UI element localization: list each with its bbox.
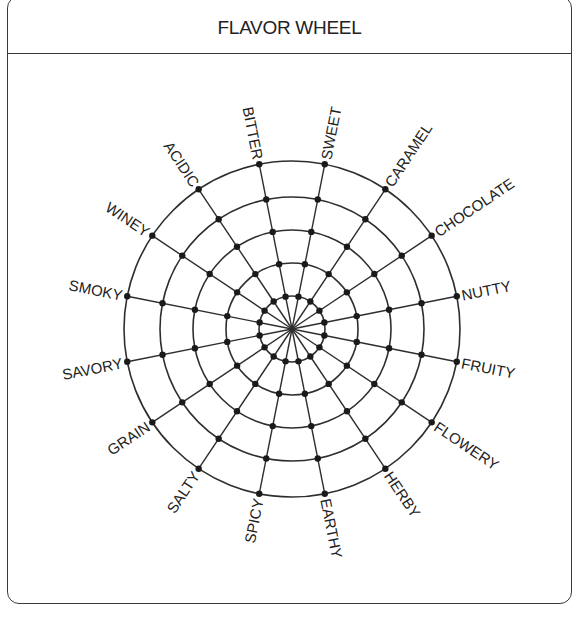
node-dot [308, 423, 314, 429]
node-dot [316, 344, 322, 350]
label-sweet: SWEET [317, 105, 344, 161]
node-dot [270, 353, 276, 359]
node-dot [344, 362, 350, 368]
label-smoky: SMOKY [68, 276, 124, 303]
node-dot [371, 381, 377, 387]
node-dot [325, 381, 331, 387]
node-dot [282, 293, 288, 299]
node-dot [418, 300, 424, 306]
node-dot [382, 186, 388, 192]
node-dot [270, 298, 276, 304]
node-dot [399, 399, 405, 405]
label-salty: SALTY [163, 468, 203, 516]
node-dot [124, 359, 130, 365]
node-dot [302, 261, 308, 267]
node-dot [215, 216, 221, 222]
node-dot [399, 252, 405, 258]
node-dot [302, 391, 308, 397]
label-caramel: CARAMEL [381, 120, 435, 190]
node-dot [269, 423, 275, 429]
node-dot [454, 293, 460, 299]
node-dot [354, 313, 360, 319]
node-dot [362, 436, 368, 442]
node-dot [263, 196, 269, 202]
node-dot [192, 306, 198, 312]
node-dot [362, 216, 368, 222]
node-dot [322, 161, 328, 167]
node-dot [195, 465, 201, 471]
label-bitter: BITTER [240, 105, 267, 161]
node-dot [261, 307, 267, 313]
node-dot [276, 261, 282, 267]
node-dot [386, 306, 392, 312]
node-dot [325, 271, 331, 277]
node-dot [418, 352, 424, 358]
label-herby: HERBY [381, 468, 424, 520]
node-dot [315, 196, 321, 202]
node-dot [159, 352, 165, 358]
label-savory: SAVORY [61, 354, 124, 383]
node-dot [149, 232, 155, 238]
node-dot [315, 455, 321, 461]
node-dot [234, 289, 240, 295]
node-dot [252, 381, 258, 387]
label-winey: WINEY [103, 199, 153, 240]
node-dot [428, 232, 434, 238]
label-spicy: SPICY [241, 497, 266, 544]
node-dot [263, 455, 269, 461]
label-nutty: NUTTY [460, 277, 512, 303]
node-dot [256, 332, 262, 338]
label-grain: GRAIN [104, 418, 153, 459]
node-dot [215, 436, 221, 442]
node-dot [252, 271, 258, 277]
node-dot [321, 319, 327, 325]
node-dot [224, 313, 230, 319]
node-dot [256, 161, 262, 167]
node-dot [428, 419, 434, 425]
node-dot [195, 186, 201, 192]
node-dot [295, 358, 301, 364]
node-dot [234, 362, 240, 368]
node-dot [149, 419, 155, 425]
flavor-wheel-diagram: BITTERSWEETCARAMELCHOCOLATENUTTYFRUITYFL… [0, 0, 582, 621]
label-acidic: ACIDIC [161, 138, 203, 190]
node-dot [124, 293, 130, 299]
node-dot [307, 353, 313, 359]
node-dot [179, 399, 185, 405]
node-dot [308, 229, 314, 235]
node-dot [159, 300, 165, 306]
node-dot [256, 491, 262, 497]
node-dot [179, 252, 185, 258]
node-dot [276, 391, 282, 397]
node-dot [344, 408, 350, 414]
node-dot [322, 491, 328, 497]
node-dot [307, 298, 313, 304]
node-dot [316, 307, 322, 313]
node-dot [371, 271, 377, 277]
node-dot [321, 332, 327, 338]
node-dot [192, 345, 198, 351]
node-dot [206, 271, 212, 277]
node-dot [344, 243, 350, 249]
node-dot [261, 344, 267, 350]
node-dot [256, 319, 262, 325]
node-dot [386, 345, 392, 351]
node-dot [206, 381, 212, 387]
node-dot [234, 243, 240, 249]
wheel-spokes [127, 164, 457, 494]
label-fruity: FRUITY [460, 354, 516, 381]
node-dot [382, 465, 388, 471]
node-dot [269, 229, 275, 235]
node-dot [344, 289, 350, 295]
node-dot [454, 359, 460, 365]
node-dot [224, 339, 230, 345]
node-dot [234, 408, 240, 414]
node-dot [354, 339, 360, 345]
node-dot [282, 358, 288, 364]
label-flowery: FLOWERY [431, 418, 502, 473]
node-dot [295, 293, 301, 299]
label-chocolate: CHOCOLATE [431, 175, 517, 240]
label-earthy: EARTHY [317, 497, 345, 560]
